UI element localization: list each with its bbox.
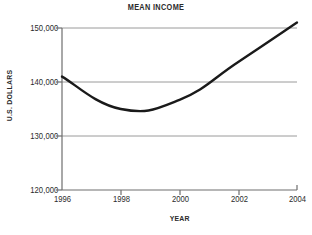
gridlines [62,28,297,136]
x-tick-label-2004: 2004 [277,194,312,204]
x-tick-text-1998: 1998 [112,194,129,204]
x-tick-text-2000: 2000 [171,194,188,204]
x-tick-text-2002: 2002 [230,194,247,204]
mean-income-line-chart: MEAN INCOME U.S. DOLLARS 150,000 140,000… [0,0,312,235]
y-tick-marks [56,28,62,190]
x-tick-label-1998: 1998 [101,194,141,204]
x-tick-text-2004: 2004 [288,194,305,204]
x-tick-label-1996: 1996 [42,194,82,204]
x-axis-title: YEAR [62,214,298,223]
x-tick-text-1996: 1996 [53,194,70,204]
x-tick-label-2000: 2000 [160,194,200,204]
axes [62,28,297,190]
data-series-line [62,23,297,112]
x-tick-label-2002: 2002 [219,194,259,204]
x-axis-title-text: YEAR [170,214,190,223]
